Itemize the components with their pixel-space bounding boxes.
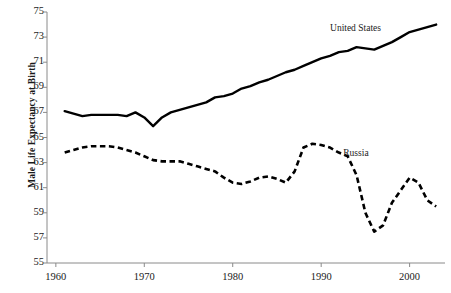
series-line-russia <box>65 144 436 232</box>
series-line-united-states <box>65 25 436 127</box>
series-label-united-states: United States <box>330 23 381 33</box>
chart-container: Male Life Expectancy at Birth 5557596163… <box>0 0 451 293</box>
series-label-russia: Russia <box>343 148 368 158</box>
plot-area <box>0 0 451 293</box>
